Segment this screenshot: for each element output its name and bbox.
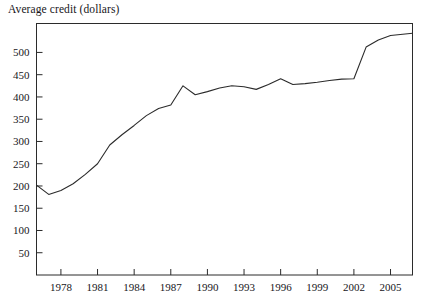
- x-tick-label: 1981: [87, 281, 109, 293]
- x-tick-label: 1990: [196, 281, 218, 293]
- x-tick-label: 1978: [50, 281, 72, 293]
- x-tick-label: 2002: [343, 281, 365, 293]
- y-tick-label: 400: [13, 91, 30, 103]
- line-chart-plot: [0, 0, 427, 304]
- y-tick-label: 50: [19, 247, 30, 259]
- x-tick-label: 1987: [160, 281, 182, 293]
- y-tick-label: 250: [13, 158, 30, 170]
- x-tick-label: 1993: [233, 281, 255, 293]
- plot-frame: [37, 24, 413, 276]
- y-tick-label: 450: [13, 69, 30, 81]
- x-tick-label: 2005: [380, 281, 402, 293]
- y-tick-label: 100: [13, 224, 30, 236]
- y-tick-label: 300: [13, 135, 30, 147]
- y-tick-label: 150: [13, 202, 30, 214]
- chart-figure: Average credit (dollars) 501001502002503…: [0, 0, 427, 304]
- x-tick-label: 1984: [123, 281, 145, 293]
- y-tick-label: 350: [13, 113, 30, 125]
- x-tick-label: 1999: [306, 281, 328, 293]
- y-tick-label: 200: [13, 180, 30, 192]
- y-tick-label: 500: [13, 46, 30, 58]
- x-tick-label: 1996: [270, 281, 292, 293]
